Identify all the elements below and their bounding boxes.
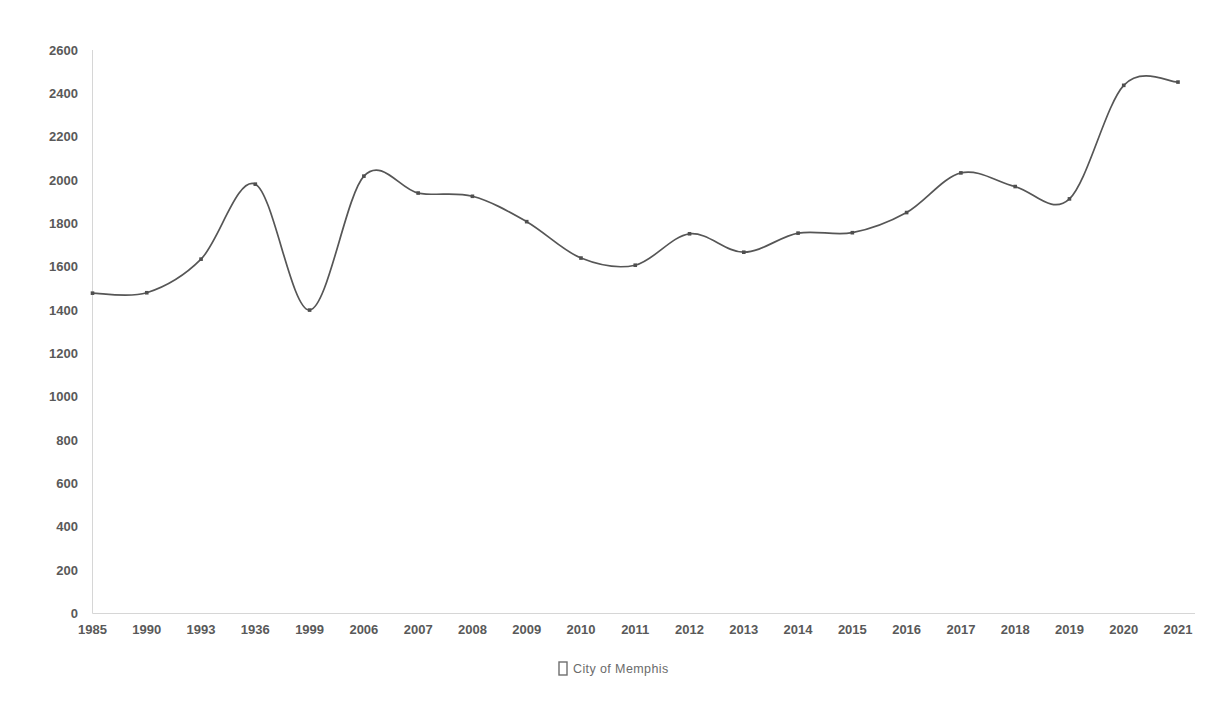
x-tick-label: 2009 [512,622,541,637]
data-point-marker [471,194,475,198]
series-line-city-of-memphis [93,76,1179,310]
data-point-marker [525,220,529,224]
data-point-marker [1068,197,1072,201]
data-point-marker [91,291,95,295]
data-point-marker [1122,84,1126,88]
x-tick-label: 2016 [892,622,921,637]
chart-legend: City of Memphis [559,662,669,676]
x-tick-label: 2013 [729,622,758,637]
y-tick-label: 1400 [49,303,78,318]
chart-canvas: 0200400600800100012001400160018002000220… [0,0,1232,708]
x-tick-label: 2018 [1001,622,1030,637]
y-tick-label: 1800 [49,216,78,231]
x-tick-label: 2008 [458,622,487,637]
x-tick-label: 1990 [132,622,161,637]
y-tick-labels: 0200400600800100012001400160018002000220… [49,43,78,622]
x-axis: 1985199019931936199920062007200820092010… [78,614,1195,638]
y-tick-label: 1200 [49,346,78,361]
x-tick-labels: 1985199019931936199920062007200820092010… [78,622,1192,637]
data-point-marker [1013,185,1017,189]
x-tick-label: 2010 [567,622,596,637]
y-tick-label: 1000 [49,389,78,404]
x-tick-label: 2007 [404,622,433,637]
legend-entry-label: City of Memphis [573,662,669,676]
x-tick-label: 1999 [295,622,324,637]
y-axis: 0200400600800100012001400160018002000220… [49,43,92,622]
x-tick-label: 2020 [1109,622,1138,637]
y-tick-label: 2200 [49,129,78,144]
data-point-marker [362,174,366,178]
data-point-marker [688,232,692,236]
data-point-marker [199,257,203,261]
data-point-marker [254,182,258,186]
x-tick-label: 2012 [675,622,704,637]
data-point-marker [742,250,746,254]
data-point-marker [1176,80,1180,84]
y-tick-label: 1600 [49,259,78,274]
data-point-marker [905,211,909,215]
x-tick-label: 1936 [241,622,270,637]
data-point-marker [633,263,637,267]
data-point-marker [851,231,855,235]
y-tick-label: 0 [71,606,78,621]
x-tick-label: 2015 [838,622,867,637]
data-point-marker [959,171,963,175]
line-chart: 0200400600800100012001400160018002000220… [0,0,1232,708]
y-tick-label: 400 [56,519,78,534]
legend-swatch-icon [559,662,567,675]
y-tick-label: 600 [56,476,78,491]
data-point-marker [579,256,583,260]
series-group [91,76,1180,312]
data-point-marker [416,191,420,195]
y-tick-label: 800 [56,433,78,448]
x-tick-label: 2014 [784,622,814,637]
data-point-marker [796,231,800,235]
data-point-marker [308,308,312,312]
y-tick-label: 2000 [49,173,78,188]
x-tick-label: 1993 [187,622,216,637]
x-tick-label: 2006 [349,622,378,637]
x-tick-label: 2011 [621,622,649,637]
y-tick-label: 2600 [49,43,78,58]
data-point-marker [145,291,149,295]
x-tick-label: 2017 [946,622,975,637]
x-tick-label: 1985 [78,622,107,637]
x-tick-label: 2021 [1164,622,1193,637]
y-tick-label: 200 [56,563,78,578]
y-tick-label: 2400 [49,86,78,101]
series-markers-city-of-memphis [91,80,1180,312]
x-tick-label: 2019 [1055,622,1084,637]
